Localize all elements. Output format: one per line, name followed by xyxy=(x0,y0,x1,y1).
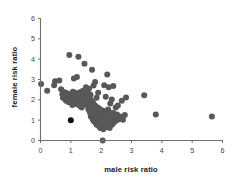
data-point xyxy=(81,61,87,67)
y-tick-label: 3 xyxy=(31,75,35,84)
data-point xyxy=(38,81,44,87)
data-point xyxy=(92,79,98,85)
x-tick-label: 0 xyxy=(39,146,43,155)
y-tick-label: 5 xyxy=(31,34,35,43)
data-points-layer xyxy=(38,52,215,143)
data-point xyxy=(44,88,50,94)
data-point xyxy=(103,94,109,100)
y-tick-label: 2 xyxy=(31,95,35,104)
data-point xyxy=(123,94,129,100)
data-point xyxy=(74,74,80,80)
y-tick-label: 1 xyxy=(31,116,35,125)
data-point xyxy=(122,112,128,118)
data-point xyxy=(66,52,72,58)
x-tick-label: 4 xyxy=(160,146,164,155)
data-point xyxy=(94,95,100,101)
data-point xyxy=(141,92,147,98)
data-point xyxy=(89,67,95,73)
axes-layer xyxy=(41,19,223,141)
x-axis-title: male risk ratio xyxy=(104,165,158,174)
data-point-highlight xyxy=(68,117,74,123)
data-point xyxy=(95,90,101,96)
x-tick-label: 5 xyxy=(190,146,194,155)
data-point xyxy=(153,111,159,117)
x-tick-label: 2 xyxy=(99,146,103,155)
scatter-plot-figure: 01234560123456 male risk ratio female ri… xyxy=(0,0,241,185)
data-point xyxy=(75,54,81,60)
data-point xyxy=(209,114,215,120)
y-tick-label: 4 xyxy=(31,55,35,64)
data-point xyxy=(109,96,115,102)
y-axis-title: female risk ratio xyxy=(10,46,19,107)
data-point xyxy=(110,83,116,89)
y-tick-label: 0 xyxy=(31,136,35,145)
data-point xyxy=(104,71,110,77)
data-point xyxy=(56,78,62,84)
data-point xyxy=(88,92,94,98)
plot-canvas: 01234560123456 male risk ratio female ri… xyxy=(0,0,241,185)
y-tick-label: 6 xyxy=(31,14,35,23)
data-point xyxy=(115,103,121,109)
tick-labels-layer: 01234560123456 xyxy=(31,14,225,154)
x-tick-label: 6 xyxy=(221,146,225,155)
x-tick-label: 3 xyxy=(130,146,134,155)
x-tick-label: 1 xyxy=(69,146,73,155)
